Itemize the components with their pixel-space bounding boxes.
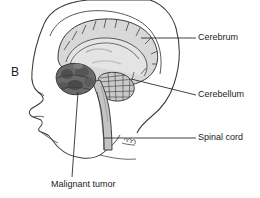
label-malignant-tumor: Malignant tumor <box>51 180 116 189</box>
label-cerebellum: Cerebellum <box>198 90 244 99</box>
panel-label-b: B <box>11 66 19 78</box>
head-sagittal-illustration <box>0 0 260 198</box>
malignant-tumor-structure <box>56 63 96 95</box>
chin-contour-line <box>41 132 58 143</box>
leader-line-malignant-tumor <box>72 92 78 177</box>
collar-line <box>100 155 136 159</box>
anatomy-figure-panel-b: B Cerebrum Cerebellum Spinal cord Malign… <box>0 0 260 198</box>
label-spinal-cord: Spinal cord <box>198 133 243 142</box>
nape-hair-detail <box>122 139 135 145</box>
mouth-line <box>33 116 44 117</box>
leader-line-cerebellum <box>131 79 196 95</box>
label-cerebrum: Cerebrum <box>198 33 238 42</box>
